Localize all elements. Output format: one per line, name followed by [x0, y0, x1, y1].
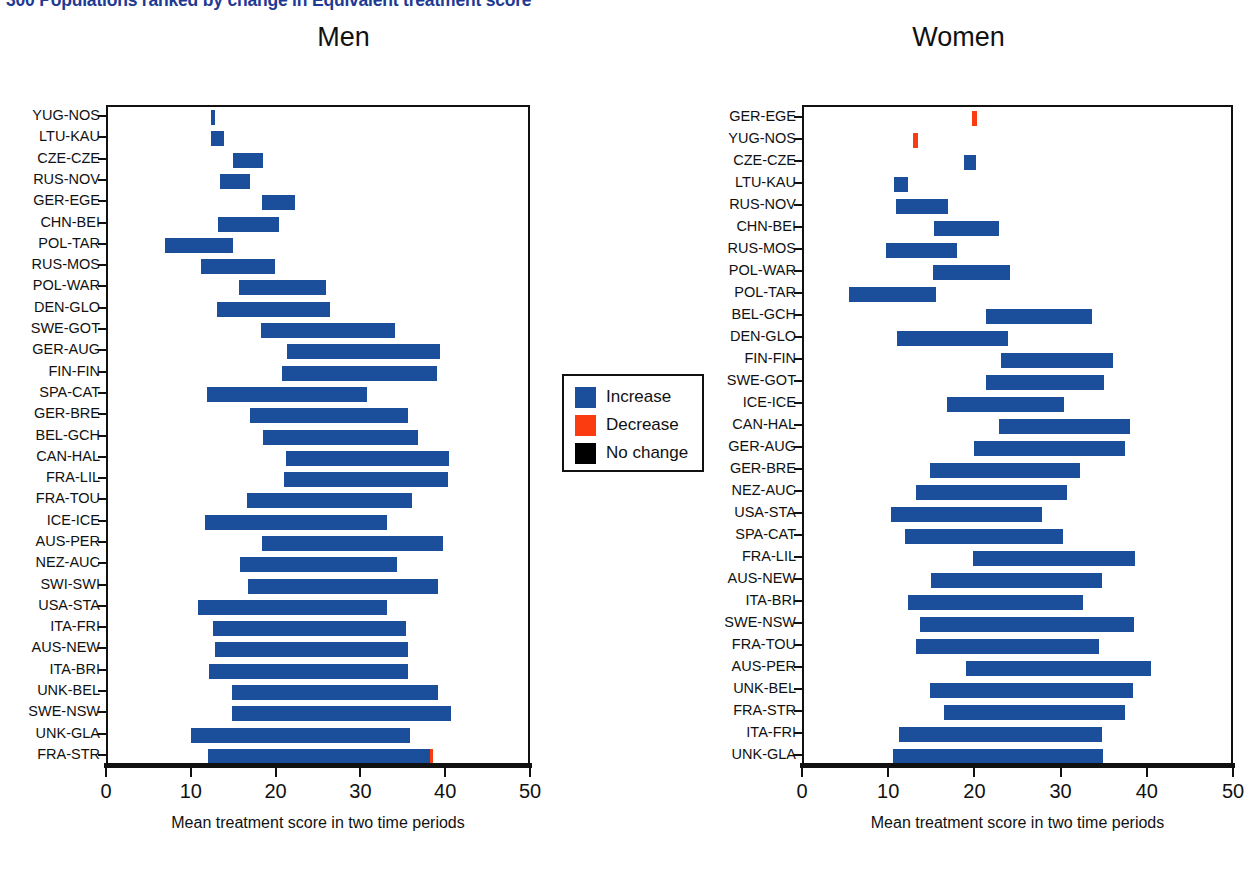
- y-axis-label: FRA-LIL: [0, 467, 100, 488]
- bar-row: [804, 328, 1231, 349]
- y-axis-label: RUS-MOS: [686, 238, 796, 259]
- y-axis-tick: [794, 622, 802, 624]
- bar-swe-nsw: [920, 617, 1134, 632]
- bar-fra-lil: [973, 551, 1135, 566]
- bar-aus-new: [931, 573, 1102, 588]
- bar-pol-war: [933, 265, 1010, 280]
- x-axis-tick: [1232, 766, 1234, 777]
- x-axis-title-women: Mean treatment score in two time periods: [802, 814, 1233, 832]
- bar-row: [108, 469, 528, 490]
- bar-cze-cze: [233, 153, 263, 168]
- chart-page: 300 Populations ranked by change in Equi…: [0, 0, 1254, 870]
- y-axis-tick: [794, 336, 802, 338]
- y-axis-tick: [98, 541, 106, 543]
- bar-ita-bri: [908, 595, 1083, 610]
- y-axis-label: GER-EGE: [0, 190, 100, 211]
- bar-row: [804, 724, 1231, 745]
- y-axis-tick: [794, 182, 802, 184]
- y-axis-tick: [794, 160, 802, 162]
- bar-row: [804, 636, 1231, 657]
- bar-row: [108, 661, 528, 682]
- bar-row: [804, 614, 1231, 635]
- bar-ita-fri: [899, 727, 1102, 742]
- y-axis-tick: [794, 446, 802, 448]
- bar-fin-fin: [282, 366, 437, 381]
- bar-unk-bel: [930, 683, 1133, 698]
- bar-rows-men: [108, 107, 528, 763]
- bar-swe-nsw: [232, 706, 451, 721]
- y-axis-label: ITA-FRI: [686, 722, 796, 743]
- bar-pol-tar: [165, 238, 233, 253]
- y-axis-tick: [98, 371, 106, 373]
- y-axis-tick: [794, 666, 802, 668]
- y-axis-label: AUS-NEW: [0, 637, 100, 658]
- y-axis-label: SPA-CAT: [0, 382, 100, 403]
- bar-row: [108, 405, 528, 426]
- bar-rus-nov: [896, 199, 948, 214]
- bar-row: [804, 372, 1231, 393]
- y-axis-tick: [98, 498, 106, 500]
- bar-row: [804, 438, 1231, 459]
- bar-row: [108, 533, 528, 554]
- y-axis-tick: [794, 424, 802, 426]
- legend: Increase Decrease No change: [562, 374, 704, 472]
- y-axis-label: POL-WAR: [686, 260, 796, 281]
- x-axis-tick-label: 0: [100, 780, 111, 803]
- y-axis-tick: [98, 435, 106, 437]
- y-axis-label: ITA-BRI: [686, 590, 796, 611]
- y-axis-tick: [98, 243, 106, 245]
- bar-row: [108, 192, 528, 213]
- bar-row: [804, 174, 1231, 195]
- y-axis-label: POL-TAR: [0, 233, 100, 254]
- x-axis-line-women: [800, 763, 1235, 768]
- bar-row: [108, 597, 528, 618]
- y-axis-tick: [794, 534, 802, 536]
- bar-chn-bei: [934, 221, 999, 236]
- y-axis-tick: [98, 200, 106, 202]
- x-axis-tick: [359, 766, 361, 777]
- y-axis-tick: [98, 349, 106, 351]
- y-axis-label: SPA-CAT: [686, 524, 796, 545]
- x-axis-tick-label: 10: [180, 780, 202, 803]
- x-axis-tick-label: 30: [349, 780, 371, 803]
- y-axis-label: FRA-STR: [0, 744, 100, 765]
- x-axis-tick: [105, 766, 107, 777]
- y-axis-label: LTU-KAU: [686, 172, 796, 193]
- bar-row: [804, 658, 1231, 679]
- y-axis-label: GER-EGE: [686, 106, 796, 127]
- x-axis-tick-label: 50: [1222, 780, 1244, 803]
- bar-row: [108, 639, 528, 660]
- bar-fra-tou: [247, 493, 412, 508]
- y-axis-label: RUS-MOS: [0, 254, 100, 275]
- y-axis-tick: [794, 358, 802, 360]
- bar-fra-str: [944, 705, 1125, 720]
- panel-heading-women: Women: [627, 22, 1254, 53]
- bar-bel-gch: [986, 309, 1092, 324]
- y-axis-tick: [794, 710, 802, 712]
- legend-swatch-increase: [575, 387, 596, 408]
- bar-row: [804, 218, 1231, 239]
- y-axis-tick: [98, 669, 106, 671]
- bar-nez-auc: [240, 557, 397, 572]
- y-axis-tick: [794, 688, 802, 690]
- x-axis-tick-label: 20: [963, 780, 985, 803]
- legend-item-increase: Increase: [575, 383, 702, 411]
- bar-pol-tar: [849, 287, 935, 302]
- bar-ger-ege: [972, 111, 977, 126]
- y-axis-label: ICE-ICE: [0, 510, 100, 531]
- y-axis-label: CAN-HAL: [0, 446, 100, 467]
- x-axis-tick-label: 20: [264, 780, 286, 803]
- bar-ita-fri: [213, 621, 406, 636]
- bar-row: [804, 262, 1231, 283]
- y-axis-label: FRA-STR: [686, 700, 796, 721]
- x-axis-tick-label: 10: [877, 780, 899, 803]
- y-axis-tick: [794, 490, 802, 492]
- bar-ltu-kau: [211, 131, 224, 146]
- bar-den-glo: [217, 302, 330, 317]
- y-axis-label: NEZ-AUC: [686, 480, 796, 501]
- bar-row: [108, 490, 528, 511]
- y-axis-label: YUG-NOS: [686, 128, 796, 149]
- y-axis-tick: [794, 468, 802, 470]
- y-axis-label: CZE-CZE: [0, 148, 100, 169]
- bar-row: [108, 576, 528, 597]
